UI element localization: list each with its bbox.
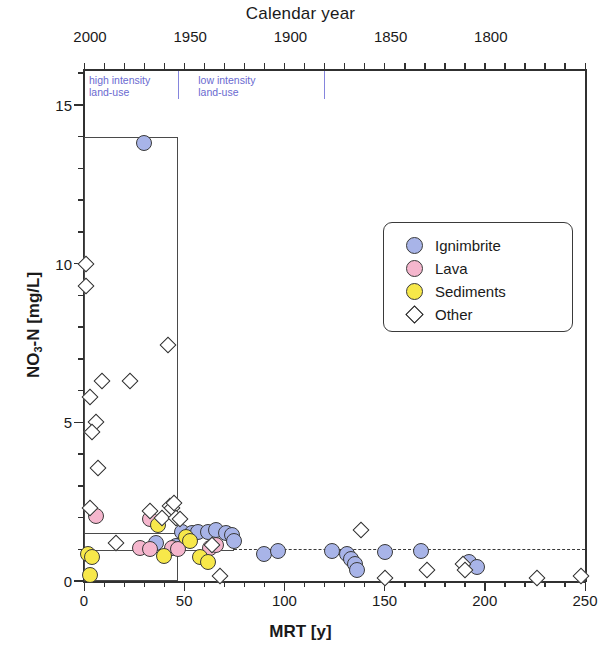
y-tick-label: 0	[20, 573, 72, 590]
x-minor-tick	[444, 582, 445, 587]
top-tick-label: 1850	[374, 28, 407, 45]
x-minor-tick	[304, 582, 305, 587]
y-axis-label: NO3-N [mg/L]	[24, 195, 44, 455]
top-minor-tick	[124, 63, 125, 69]
legend-label: Ignimbrite	[435, 237, 501, 254]
x-minor-tick	[524, 582, 525, 587]
top-tick-label: 1950	[174, 28, 207, 45]
top-minor-tick	[444, 63, 445, 69]
top-minor-tick	[204, 63, 205, 69]
top-minor-tick	[104, 63, 105, 69]
x-minor-tick	[264, 582, 265, 587]
top-tick-label: 2000	[73, 28, 106, 45]
data-point-sediments	[200, 554, 216, 570]
top-minor-tick	[144, 63, 145, 69]
y-axis-label-post: -N [mg/L]	[24, 272, 43, 347]
top-minor-tick	[564, 63, 565, 69]
top-minor-tick	[224, 63, 225, 69]
data-point-other	[352, 522, 369, 539]
top-minor-tick	[244, 63, 245, 69]
top-minor-tick	[284, 63, 285, 69]
y-tick-label: 15	[20, 96, 72, 113]
legend-label: Sediments	[435, 283, 506, 300]
x-tick-label: 0	[80, 592, 88, 609]
legend-item-ignimbrite[interactable]: Ignimbrite	[397, 235, 501, 255]
x-axis-label: MRT [y]	[0, 622, 601, 642]
x-minor-tick	[504, 582, 505, 587]
x-major-tick	[284, 582, 285, 591]
x-minor-tick	[224, 582, 225, 587]
legend-item-other[interactable]: Other	[397, 304, 473, 324]
x-tick-label: 200	[472, 592, 497, 609]
legend-item-sediments[interactable]: Sediments	[397, 281, 506, 301]
dashed-reference-line	[234, 549, 585, 550]
x-axis-line	[83, 581, 586, 583]
data-point-sediments	[82, 567, 98, 583]
top-minor-tick	[164, 63, 165, 69]
x-tick-label: 250	[572, 592, 597, 609]
filled-circle-icon	[406, 283, 423, 300]
x-minor-tick	[104, 582, 105, 587]
x-minor-tick	[244, 582, 245, 587]
data-point-ignimbrite	[226, 533, 242, 549]
top-tick-label: 1800	[474, 28, 507, 45]
top-minor-tick	[464, 63, 465, 69]
y-minor-tick	[78, 72, 84, 74]
x-minor-tick	[464, 582, 465, 587]
scatter-plot-figure: 0501001502002500510152000195019001850180…	[0, 0, 601, 649]
x-tick-label: 100	[272, 592, 297, 609]
top-minor-tick	[364, 63, 365, 69]
top-minor-tick	[404, 63, 405, 69]
data-point-ignimbrite	[377, 544, 393, 560]
filled-circle-icon	[406, 237, 423, 254]
top-minor-tick	[304, 63, 305, 69]
legend-item-lava[interactable]: Lava	[397, 258, 468, 278]
x-minor-tick	[424, 582, 425, 587]
y-major-tick	[74, 580, 84, 582]
x-minor-tick	[164, 582, 165, 587]
top-minor-tick	[585, 63, 586, 69]
data-point-sediments	[182, 533, 198, 549]
y-axis-label-pre: NO	[24, 353, 43, 379]
y-major-tick	[74, 104, 84, 106]
data-point-ignimbrite	[349, 562, 365, 578]
filled-circle-icon	[406, 260, 423, 277]
land-use-divider-1	[178, 71, 179, 99]
x-minor-tick	[324, 582, 325, 587]
right-axis-line	[585, 69, 587, 582]
top-minor-tick	[324, 63, 325, 69]
top-minor-tick	[384, 63, 385, 69]
data-point-ignimbrite	[136, 135, 152, 151]
data-point-other	[418, 561, 435, 578]
legend-symbol-filled-circle	[397, 260, 431, 277]
x-minor-tick	[144, 582, 145, 587]
x-minor-tick	[544, 582, 545, 587]
top-minor-tick	[344, 63, 345, 69]
x-major-tick	[84, 582, 85, 591]
x-tick-label: 50	[176, 592, 193, 609]
x-minor-tick	[204, 582, 205, 587]
x-major-tick	[484, 582, 485, 591]
top-minor-tick	[264, 63, 265, 69]
top-tick-label: 1900	[274, 28, 307, 45]
low-intensity-land-use-label: low intensity land-use	[198, 74, 255, 98]
legend-symbol-open-diamond	[397, 308, 431, 321]
legend-label: Other	[435, 306, 473, 323]
y-axis-label-sub: 3	[32, 346, 44, 352]
high-intensity-land-use-label: high intensity land-use	[89, 74, 150, 98]
top-minor-tick	[424, 63, 425, 69]
data-point-ignimbrite	[413, 543, 429, 559]
top-axis-title: Calendar year	[0, 4, 601, 24]
top-minor-tick	[524, 63, 525, 69]
x-tick-label: 150	[372, 592, 397, 609]
data-point-other	[528, 569, 545, 586]
top-minor-tick	[84, 63, 85, 69]
top-axis-line	[83, 69, 586, 71]
y-major-tick	[74, 422, 84, 424]
legend-symbol-filled-circle	[397, 237, 431, 254]
top-minor-tick	[484, 63, 485, 69]
data-point-sediments	[156, 548, 172, 564]
x-major-tick	[585, 582, 586, 591]
x-minor-tick	[404, 582, 405, 587]
x-minor-tick	[564, 582, 565, 587]
